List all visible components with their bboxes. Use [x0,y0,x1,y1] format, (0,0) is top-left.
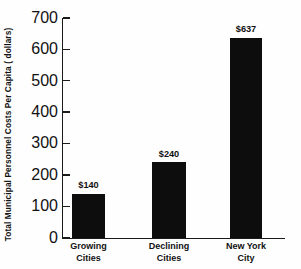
y-tick-mark [63,17,70,18]
bar-value-label: $240 [139,150,199,159]
y-tick-label-text: 700 [31,9,58,27]
y-tick-label-text: 400 [31,103,58,121]
bar-chart: Total Municipal Personnel Costs Per Capi… [0,0,301,269]
x-axis-line [62,238,285,239]
y-tick-label-text: 600 [31,40,58,58]
y-tick-mark [63,80,70,81]
y-tick-label: 500 [14,76,58,86]
y-tick-label: 200 [14,170,58,180]
y-tick-label: 400 [14,107,58,117]
y-tick-mark [63,237,70,238]
y-tick-mark [63,111,70,112]
bar [152,162,186,237]
y-tick-label: 0 [14,233,58,243]
y-axis-title: Total Municipal Personnel Costs Per Capi… [0,0,16,269]
y-tick-label-text: 500 [31,72,58,90]
y-tick-label: 300 [14,138,58,148]
y-tick-label: 100 [14,201,58,211]
y-tick-mark [63,174,70,175]
y-tick-mark [63,49,70,50]
bar [72,194,105,238]
x-axis-category-label: Growing Cities [53,241,125,264]
bar [230,38,262,238]
y-tick-label-text: 100 [31,197,58,215]
y-tick-label: 700 [14,13,58,23]
y-tick-mark [63,143,70,144]
x-axis-category-label: New York City [210,241,282,264]
y-tick-mark [63,206,70,207]
bar-value-label: $140 [59,181,119,190]
bar-value-label: $637 [216,25,276,34]
y-tick-label-text: 300 [31,134,58,152]
y-tick-label-text: 200 [31,166,58,184]
y-tick-label: 600 [14,44,58,54]
x-axis-category-label: Declining Cities [133,241,205,264]
